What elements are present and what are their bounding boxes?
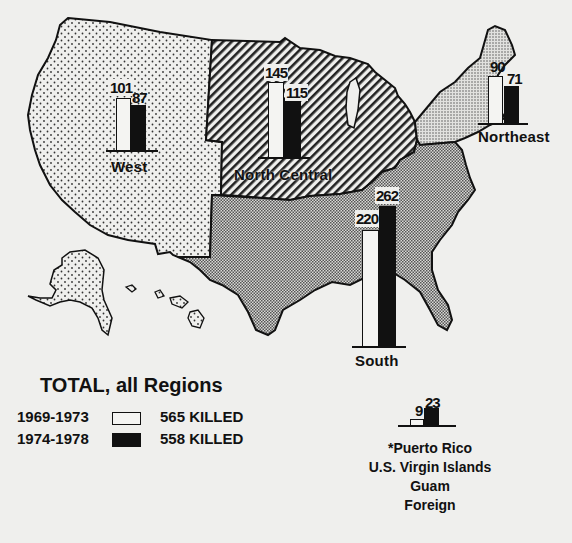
northeast-label: Northeast — [478, 128, 550, 145]
territory-foreign: Foreign — [350, 497, 510, 513]
northeast-baseline — [478, 123, 528, 125]
northeast-value-1974: 71 — [506, 70, 523, 87]
south-bar-1974 — [379, 206, 396, 347]
legend-title: TOTAL, all Regions — [40, 374, 223, 397]
territory-virgin-islands: U.S. Virgin Islands — [350, 459, 510, 475]
north-central-bar-1969 — [268, 82, 284, 158]
legend-swatch-open — [112, 412, 141, 425]
west-bar-1974 — [131, 105, 146, 151]
legend-period-1974: 1974-1978 — [17, 430, 89, 447]
north-central-bar-1974 — [284, 98, 301, 158]
legend-total-1969: 565 KILLED — [160, 408, 243, 425]
north-central-baseline — [258, 157, 310, 159]
south-bar-1969 — [362, 230, 379, 347]
north-central-value-1974: 115 — [285, 84, 308, 101]
west-value-1969: 101 — [109, 79, 133, 96]
west-bar-1969 — [116, 98, 131, 151]
legend-swatch-filled — [112, 433, 141, 447]
south-value-1974: 262 — [375, 187, 399, 204]
region-map-chart: 101 87 West 145 115 North Central 90 71 … — [0, 0, 572, 543]
south-value-1969: 220 — [355, 210, 379, 227]
territory-guam: Guam — [350, 478, 510, 494]
north-central-value-1969: 145 — [264, 64, 288, 81]
region-hawaii — [126, 285, 204, 328]
territories-label: *Puerto Rico U.S. Virgin Islands Guam Fo… — [350, 440, 510, 513]
legend-total-1974: 558 KILLED — [160, 430, 243, 447]
region-alaska — [28, 250, 112, 335]
west-value-1974: 87 — [131, 89, 148, 106]
northeast-value-1969: 90 — [489, 58, 506, 75]
south-baseline — [352, 346, 406, 348]
west-label: West — [111, 158, 147, 175]
territories-value-1969: 9 — [414, 402, 423, 419]
territories-baseline — [398, 425, 456, 427]
north-central-label: North Central — [234, 166, 332, 183]
territories-value-1974: 23 — [424, 394, 441, 411]
south-label: South — [355, 352, 399, 369]
west-baseline — [106, 150, 158, 152]
northeast-bar-1974 — [504, 86, 519, 124]
legend-period-1969: 1969-1973 — [17, 408, 89, 425]
northeast-bar-1969 — [488, 76, 503, 124]
territory-puerto-rico: *Puerto Rico — [350, 440, 510, 456]
